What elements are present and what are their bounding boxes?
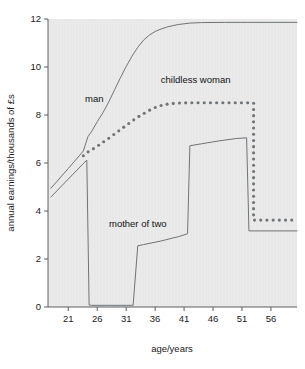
series-dot (246, 101, 249, 104)
x-tick-label: 51 (237, 313, 248, 324)
series-dot (122, 126, 125, 129)
series-dot (252, 127, 255, 130)
series-dot (252, 102, 255, 105)
series-dot (278, 219, 281, 222)
series-dot (197, 101, 200, 104)
series-dot (252, 145, 255, 148)
x-axis-title: age/years (151, 343, 193, 354)
series-dot (132, 118, 135, 121)
y-tick-label: 10 (30, 61, 41, 72)
y-axis-title: annual earnings/thousands of £s (5, 94, 16, 232)
series-dot (252, 195, 255, 198)
series-dot (137, 115, 140, 118)
series-dot (284, 219, 287, 222)
series-label-man: man (85, 93, 103, 104)
series-dot (253, 219, 256, 222)
series-dot (252, 114, 255, 117)
series-dot (252, 108, 255, 111)
x-tick-label: 31 (121, 313, 132, 324)
x-tick-label: 26 (92, 313, 103, 324)
x-axis-ticks: 2126313641465156 (63, 307, 276, 324)
series-dot (87, 150, 90, 153)
series-dot (178, 101, 181, 104)
series-dot (82, 154, 85, 157)
series-dot (209, 101, 212, 104)
series-dot (252, 151, 255, 154)
series-dot (252, 189, 255, 192)
series-dot (252, 170, 255, 173)
series-dot (102, 140, 105, 143)
series-dot (252, 158, 255, 161)
series-dot (252, 120, 255, 123)
x-tick-label: 41 (179, 313, 190, 324)
series-dot (221, 101, 224, 104)
series-dot (252, 133, 255, 136)
series-dot (143, 112, 146, 115)
series-dot (259, 219, 262, 222)
series-dot (290, 219, 293, 222)
y-tick-label: 0 (36, 301, 41, 312)
series-dot (252, 201, 255, 204)
y-tick-label: 2 (36, 253, 41, 264)
series-dot (240, 101, 243, 104)
series-dot (234, 101, 237, 104)
series-dot (252, 164, 255, 167)
series-dot (265, 219, 268, 222)
x-tick-label: 36 (150, 313, 161, 324)
series-dot (112, 133, 115, 136)
series-dot (252, 207, 255, 210)
y-tick-label: 8 (36, 109, 41, 120)
series-dot (107, 137, 110, 140)
series-dot (203, 101, 206, 104)
series-dot (272, 219, 275, 222)
series-dot (172, 102, 175, 105)
series-dot (160, 104, 163, 107)
series-dot (92, 147, 95, 150)
figure-container: 024681012 2126313641465156 manchildless … (0, 0, 305, 369)
y-tick-label: 4 (36, 205, 41, 216)
series-dot (252, 213, 255, 216)
y-tick-label: 12 (30, 13, 41, 24)
series-dot (228, 101, 231, 104)
series-label-childless-woman: childless woman (161, 74, 231, 85)
x-tick-label: 21 (63, 313, 74, 324)
series-dot (190, 101, 193, 104)
series-dot (184, 101, 187, 104)
series-dot (127, 122, 130, 125)
series-dot (252, 176, 255, 179)
series-dot (166, 103, 169, 106)
series-dot (252, 182, 255, 185)
series-label-mother-of-two: mother of two (109, 218, 167, 229)
x-tick-label: 56 (266, 313, 277, 324)
series-dot (97, 144, 100, 147)
series-dot (215, 101, 218, 104)
earnings-by-age-line-chart: 024681012 2126313641465156 manchildless … (0, 0, 305, 369)
y-tick-label: 6 (36, 157, 41, 168)
x-tick-label: 46 (208, 313, 219, 324)
series-dot (117, 129, 120, 132)
y-axis-ticks: 024681012 (30, 13, 48, 312)
series-dot (154, 106, 157, 109)
series-dot (252, 139, 255, 142)
series-dot (148, 109, 151, 112)
